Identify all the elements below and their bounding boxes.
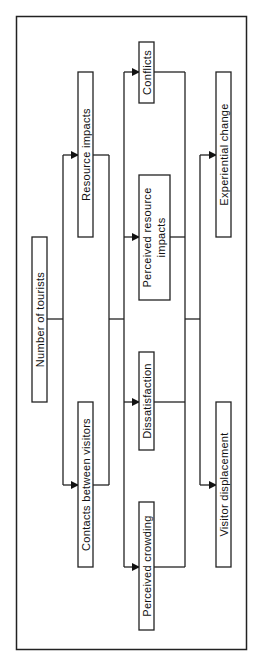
node-label: Number of tourists bbox=[34, 272, 46, 367]
node-perceived-resource-impacts: Perceived resource impacts bbox=[139, 175, 170, 300]
node-label-line2: impacts bbox=[155, 217, 167, 257]
node-label: Conflicts bbox=[141, 50, 153, 95]
node-label: Perceived crowding bbox=[141, 515, 153, 616]
node-label: Resource impacts bbox=[80, 108, 92, 201]
node-contacts-between-visitors: Contacts between visitors bbox=[78, 402, 93, 567]
node-label: Experiential change bbox=[218, 103, 230, 205]
node-visitor-displacement: Visitor displacement bbox=[216, 402, 231, 567]
node-label-line1: Perceived resource bbox=[141, 187, 153, 287]
node-experiential-change: Experiential change bbox=[216, 72, 231, 237]
diagram-canvas: Number of tourists Resource impacts Cont… bbox=[0, 0, 263, 660]
node-perceived-crowding: Perceived crowding bbox=[139, 502, 154, 630]
node-dissatisfaction: Dissatisfaction bbox=[139, 352, 154, 450]
node-label: Dissatisfaction bbox=[141, 363, 153, 438]
node-label: Visitor displacement bbox=[218, 432, 230, 536]
connectors bbox=[47, 72, 216, 567]
node-number-of-tourists: Number of tourists bbox=[32, 237, 47, 402]
node-label: Contacts between visitors bbox=[80, 418, 92, 551]
node-conflicts: Conflicts bbox=[139, 42, 154, 103]
node-resource-impacts: Resource impacts bbox=[78, 72, 93, 237]
diagram-frame bbox=[17, 17, 247, 650]
